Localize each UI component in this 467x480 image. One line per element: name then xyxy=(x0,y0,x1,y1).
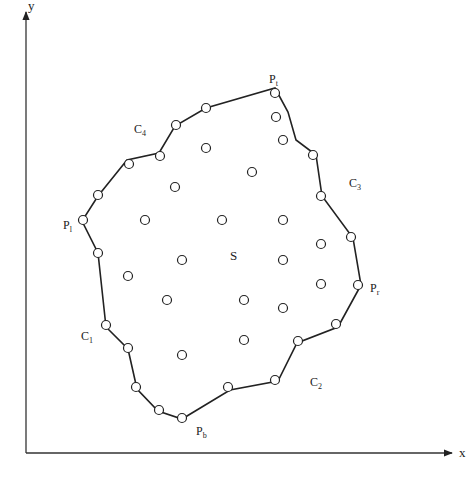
boundary-point xyxy=(125,160,134,169)
interior-point xyxy=(279,256,288,265)
boundary-point xyxy=(317,192,326,201)
boundary-point xyxy=(132,383,141,392)
interior-point xyxy=(248,168,257,177)
interior-point xyxy=(279,304,288,313)
interior-point xyxy=(178,351,187,360)
y-axis-label: y xyxy=(28,0,35,13)
boundary-point xyxy=(156,152,165,161)
boundary-point xyxy=(94,191,103,200)
label-p-r: Pr xyxy=(370,281,380,297)
label-p-b: Pb xyxy=(196,424,207,440)
interior-point xyxy=(279,216,288,225)
boundary-point xyxy=(172,121,181,130)
boundary-point xyxy=(354,281,363,290)
label-p-l: Pl xyxy=(63,218,73,234)
boundary-point xyxy=(272,113,281,122)
boundary-point xyxy=(202,104,211,113)
interior-point xyxy=(141,216,150,225)
boundary-point xyxy=(271,376,280,385)
interior-point xyxy=(163,296,172,305)
boundary-point xyxy=(155,406,164,415)
boundary-point xyxy=(102,321,111,330)
interior-points xyxy=(124,144,326,360)
interior-point xyxy=(171,183,180,192)
x-axis-label: x xyxy=(459,445,466,460)
label-c-1: C1 xyxy=(81,329,93,345)
interior-point xyxy=(240,336,249,345)
axes: x y xyxy=(26,0,466,460)
label-c-2: C2 xyxy=(310,375,322,391)
label-c-3: C3 xyxy=(349,176,361,192)
boundary-point xyxy=(279,136,288,145)
interior-point xyxy=(240,296,249,305)
boundary-point xyxy=(332,320,341,329)
interior-point xyxy=(202,144,211,153)
convex-region-diagram: x y S PtPlPrPbC1C2C3C4 xyxy=(0,0,467,480)
boundary-labels: PtPlPrPbC1C2C3C4 xyxy=(63,72,380,440)
interior-point xyxy=(218,216,227,225)
boundary-point xyxy=(224,383,233,392)
boundary-point xyxy=(271,89,280,98)
boundary-point xyxy=(294,337,303,346)
boundary-point xyxy=(347,233,356,242)
region-label: S xyxy=(230,248,237,263)
boundary-points xyxy=(79,89,363,423)
diagram-canvas: x y S PtPlPrPbC1C2C3C4 xyxy=(0,0,467,480)
boundary-point xyxy=(309,151,318,160)
label-c-4: C4 xyxy=(134,122,146,138)
boundary-point xyxy=(124,344,133,353)
interior-point xyxy=(178,256,187,265)
boundary-point xyxy=(79,216,88,225)
interior-point xyxy=(124,272,133,281)
label-p-t: Pt xyxy=(269,72,279,88)
boundary-point xyxy=(178,414,187,423)
interior-point xyxy=(317,280,326,289)
boundary-point xyxy=(94,249,103,258)
region-boundary xyxy=(82,88,361,419)
interior-point xyxy=(317,240,326,249)
